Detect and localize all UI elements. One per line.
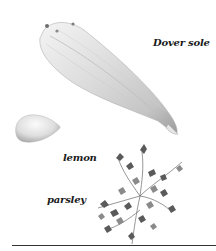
lemon-label: lemon [63, 152, 97, 163]
dover-sole-label: Dover sole [153, 37, 210, 48]
parsley-label: parsley [47, 194, 86, 205]
horizontal-rule [12, 245, 216, 246]
lemon-image [16, 115, 60, 142]
ingredients-illustration: Dover sole lemon parsley [0, 0, 216, 251]
